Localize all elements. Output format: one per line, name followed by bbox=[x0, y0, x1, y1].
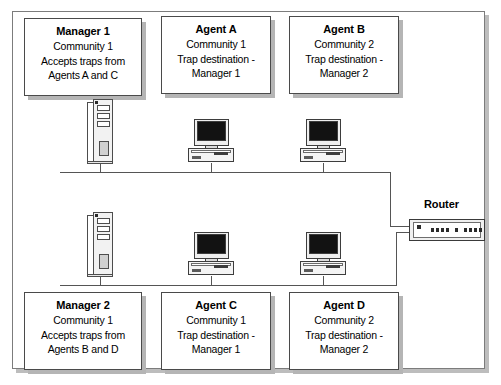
tower-drive-bay bbox=[97, 105, 110, 111]
drop-line-agent-c bbox=[211, 276, 212, 286]
optical-drive-slot-icon bbox=[326, 152, 340, 155]
agent-d-title: Agent D bbox=[290, 298, 398, 313]
uplink-top-to-router-leg bbox=[390, 226, 411, 227]
power-led-icon bbox=[95, 214, 98, 217]
monitor-screen bbox=[309, 234, 338, 254]
server-tower-icon-manager-1 bbox=[87, 99, 113, 167]
uplink-top-to-router bbox=[390, 172, 391, 226]
agent-b-line-1: Community 2 bbox=[290, 37, 398, 52]
router-port-led-icon bbox=[479, 228, 482, 232]
manager-1-line-3: Agents A and C bbox=[25, 68, 141, 83]
agent-b-title: Agent B bbox=[290, 22, 398, 37]
manager-2-box[interactable]: Manager 2 Community 1 Accepts traps from… bbox=[24, 292, 142, 370]
manager-2-line-2: Accepts traps from bbox=[25, 328, 141, 343]
router-port-led-icon bbox=[464, 228, 467, 232]
tower-drive-bay bbox=[97, 113, 110, 119]
tower-drive-bay bbox=[97, 121, 110, 127]
manager-1-line-1: Community 1 bbox=[25, 39, 141, 54]
network-bus-bottom bbox=[60, 285, 396, 286]
manager-2-line-1: Community 1 bbox=[25, 313, 141, 328]
agent-c-title: Agent C bbox=[162, 298, 270, 313]
manager-1-line-2: Accepts traps from bbox=[25, 54, 141, 69]
agent-d-line-1: Community 2 bbox=[290, 313, 398, 328]
agent-a-line-2: Trap destination - bbox=[162, 52, 270, 67]
desktop-pc-icon-agent-b bbox=[300, 119, 346, 164]
tower-vent-grill bbox=[99, 141, 109, 156]
agent-b-line-3: Manager 2 bbox=[290, 66, 398, 81]
tower-drive-bay bbox=[97, 218, 110, 224]
drop-line-agent-a bbox=[211, 163, 212, 173]
router-port-led-icon bbox=[431, 228, 434, 232]
router-port-led-icon bbox=[441, 228, 444, 232]
monitor-screen bbox=[309, 121, 338, 141]
tower-base bbox=[87, 274, 113, 277]
agent-c-box[interactable]: Agent C Community 1 Trap destination - M… bbox=[161, 292, 271, 370]
optical-drive-slot-icon bbox=[214, 265, 228, 268]
agent-b-box[interactable]: Agent B Community 2 Trap destination - M… bbox=[289, 16, 399, 94]
desktop-pc-icon-agent-d bbox=[300, 232, 346, 277]
agent-a-box[interactable]: Agent A Community 1 Trap destination - M… bbox=[161, 16, 271, 94]
desktop-pc-icon-agent-c bbox=[188, 232, 234, 277]
manager-1-title: Manager 1 bbox=[25, 24, 141, 39]
agent-a-title: Agent A bbox=[162, 22, 270, 37]
server-tower-icon-manager-2 bbox=[87, 212, 113, 280]
agent-b-line-2: Trap destination - bbox=[290, 52, 398, 67]
drop-line-agent-d bbox=[323, 276, 324, 286]
router-label: Router bbox=[424, 198, 459, 210]
agent-d-line-2: Trap destination - bbox=[290, 328, 398, 343]
monitor-screen bbox=[197, 234, 226, 254]
agent-c-line-2: Trap destination - bbox=[162, 328, 270, 343]
drop-line-agent-b bbox=[323, 163, 324, 173]
agent-d-box[interactable]: Agent D Community 2 Trap destination - M… bbox=[289, 292, 399, 370]
router-port-led-icon bbox=[436, 228, 439, 232]
network-bus-top bbox=[60, 172, 390, 173]
agent-c-line-1: Community 1 bbox=[162, 313, 270, 328]
router-status-led-icon bbox=[417, 225, 421, 229]
manager-1-box[interactable]: Manager 1 Community 1 Accepts traps from… bbox=[24, 18, 142, 96]
agent-a-line-1: Community 1 bbox=[162, 37, 270, 52]
router-port-led-icon bbox=[455, 228, 458, 232]
floppy-drive-slot-icon bbox=[304, 156, 313, 159]
optical-drive-slot-icon bbox=[326, 265, 340, 268]
floppy-drive-slot-icon bbox=[192, 156, 201, 159]
router-port-led-icon bbox=[469, 228, 472, 232]
router-port-led-icon bbox=[446, 228, 449, 232]
tower-base bbox=[87, 161, 113, 164]
uplink-bottom-to-router bbox=[396, 232, 397, 286]
agent-a-line-3: Manager 1 bbox=[162, 66, 270, 81]
optical-drive-slot-icon bbox=[214, 152, 228, 155]
monitor-screen bbox=[197, 121, 226, 141]
floppy-drive-slot-icon bbox=[304, 269, 313, 272]
agent-c-line-3: Manager 1 bbox=[162, 342, 270, 357]
manager-2-line-3: Agents B and D bbox=[25, 342, 141, 357]
router-port-led-icon bbox=[474, 228, 477, 232]
tower-drive-bay bbox=[97, 226, 110, 232]
tower-drive-bay bbox=[97, 234, 110, 240]
manager-2-title: Manager 2 bbox=[25, 298, 141, 313]
floppy-drive-slot-icon bbox=[192, 269, 201, 272]
power-led-icon bbox=[95, 101, 98, 104]
agent-d-line-3: Manager 2 bbox=[290, 342, 398, 357]
network-diagram: Manager 1 Community 1 Accepts traps from… bbox=[0, 0, 501, 385]
desktop-pc-icon-agent-a bbox=[188, 119, 234, 164]
tower-vent-grill bbox=[99, 254, 109, 269]
